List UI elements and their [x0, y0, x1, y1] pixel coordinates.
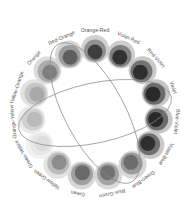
- label-blue-green: Blue-Green: [98, 188, 125, 199]
- swatch-tone-3: [133, 65, 148, 80]
- swatch-tone-3: [75, 165, 90, 180]
- label-blue-violet: Blue-Violet: [173, 109, 182, 135]
- swatch-tone-3: [112, 50, 127, 65]
- label-orange-red: Orange-Red: [81, 27, 110, 33]
- swatch-tone-3: [146, 87, 161, 102]
- swatch-green-blue: [119, 151, 147, 179]
- swatch-orange-red: [81, 35, 109, 63]
- swatch-layer: [17, 35, 172, 190]
- swatch-tone-3: [63, 50, 78, 65]
- swatch-blue-violet: [145, 106, 173, 134]
- swatch-green-yellow: [26, 131, 54, 159]
- color-wheel-diagram: Orange-RedViolet-RedRed-VioletVioletBlue…: [0, 0, 190, 207]
- swatch-tone-3: [100, 165, 115, 180]
- swatch-green: [68, 162, 96, 190]
- swatch-tone-3: [140, 136, 155, 151]
- label-violet: Violet: [169, 80, 179, 95]
- swatch-orange-yellow: [17, 106, 45, 134]
- label-orange-yellow: Orange-Yellow: [8, 104, 18, 139]
- swatch-tone-3: [27, 112, 42, 127]
- swatch-tone-3: [123, 155, 138, 170]
- swatch-blue-green: [94, 162, 122, 190]
- swatch-tone-3: [88, 45, 103, 60]
- swatch-tone-3: [29, 87, 44, 102]
- swatch-red-orange: [55, 41, 83, 69]
- swatch-tone-3: [148, 112, 163, 127]
- swatch-tone-3: [52, 155, 67, 170]
- label-green: Green: [70, 189, 85, 198]
